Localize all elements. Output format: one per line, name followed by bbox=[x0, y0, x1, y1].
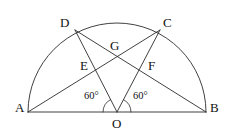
vertex-label-c: C bbox=[163, 16, 172, 29]
vertex-label-e: E bbox=[80, 59, 88, 72]
semicircle-arc bbox=[28, 23, 206, 112]
angle-label-left: 60° bbox=[84, 91, 99, 102]
vertex-label-b: B bbox=[210, 101, 219, 114]
angle-label-right: 60° bbox=[133, 91, 148, 102]
vertex-label-g: G bbox=[110, 39, 119, 52]
vertex-label-o: O bbox=[112, 117, 121, 130]
vertex-label-f: F bbox=[148, 59, 155, 72]
geometry-figure: A B C D E F G O 60° 60° bbox=[0, 0, 234, 136]
angle-arc-right bbox=[124, 100, 132, 112]
vertex-label-d: D bbox=[60, 16, 69, 29]
vertex-label-a: A bbox=[15, 101, 24, 114]
angle-arc-left bbox=[103, 100, 111, 112]
